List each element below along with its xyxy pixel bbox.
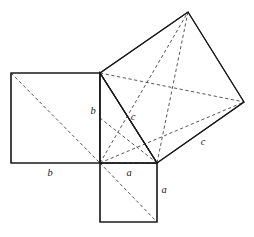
label-b-vertical: b [90, 105, 95, 116]
pythagorean-theorem-diagram: b b c c a a [0, 0, 254, 237]
label-c-hypotenuse: c [131, 111, 136, 122]
label-a-vertical: a [161, 184, 166, 195]
label-a-horizontal: a [126, 167, 131, 178]
label-c-outer: c [201, 136, 206, 147]
label-b-horizontal: b [47, 167, 52, 178]
pythagorean-diagram-container: b b c c a a [0, 0, 254, 237]
